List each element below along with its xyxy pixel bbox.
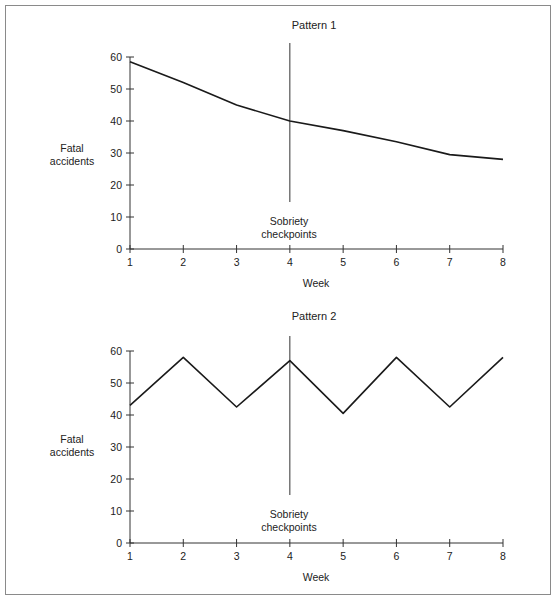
data-line [130, 62, 503, 160]
y-tick-label: 40 [110, 409, 122, 421]
chart-title: Pattern 1 [292, 19, 337, 31]
x-tick-label: 4 [287, 256, 293, 268]
y-axis-label-line1: Fatal [60, 142, 83, 154]
figure-canvas: Pattern 1 Fatal accidents Week Sobriety … [0, 0, 556, 604]
x-axis-label: Week [303, 277, 330, 289]
x-tick-label: 4 [287, 550, 293, 562]
x-tick-label: 1 [127, 550, 133, 562]
y-axis-label-line2: accidents [50, 155, 94, 167]
y-tick-label: 60 [110, 51, 122, 63]
annotation-label-line2: checkpoints [261, 521, 316, 533]
chart-pattern-1: Pattern 1 Fatal accidents Week Sobriety … [50, 19, 506, 289]
y-tick-label: 20 [110, 473, 122, 485]
y-tick-label: 60 [110, 345, 122, 357]
chart-title: Pattern 2 [292, 310, 337, 322]
y-tick-label: 10 [110, 211, 122, 223]
y-tick-label: 0 [116, 537, 122, 549]
y-tick-label: 50 [110, 83, 122, 95]
x-tick-label: 6 [394, 256, 400, 268]
x-tick-label: 7 [447, 550, 453, 562]
x-axis-label: Week [303, 571, 330, 583]
y-tick-label: 40 [110, 115, 122, 127]
data-line [130, 357, 503, 413]
chart-pattern-2: Pattern 2 Fatal accidents Week Sobriety … [50, 310, 506, 583]
y-tick-label: 30 [110, 441, 122, 453]
y-tick-label: 50 [110, 377, 122, 389]
x-tick-label: 5 [340, 256, 346, 268]
x-tick-label: 1 [127, 256, 133, 268]
annotation-label-line1: Sobriety [270, 215, 309, 227]
x-tick-label: 8 [500, 550, 506, 562]
x-tick-label: 2 [180, 550, 186, 562]
y-axis-label-line1: Fatal [60, 433, 83, 445]
annotation-label-line1: Sobriety [270, 508, 309, 520]
x-tick-label: 5 [340, 550, 346, 562]
x-tick-label: 3 [234, 256, 240, 268]
x-tick-label: 3 [234, 550, 240, 562]
annotation-label-line2: checkpoints [261, 228, 316, 240]
x-tick-label: 8 [500, 256, 506, 268]
y-tick-label: 10 [110, 505, 122, 517]
y-tick-label: 20 [110, 179, 122, 191]
y-tick-label: 30 [110, 147, 122, 159]
y-tick-label: 0 [116, 243, 122, 255]
x-tick-label: 6 [394, 550, 400, 562]
x-tick-label: 2 [180, 256, 186, 268]
x-tick-label: 7 [447, 256, 453, 268]
y-axis-label-line2: accidents [50, 446, 94, 458]
